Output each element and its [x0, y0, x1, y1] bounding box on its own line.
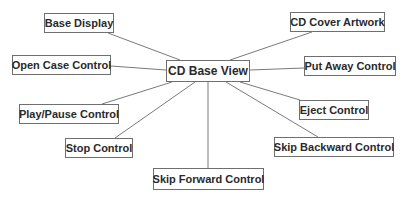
connector-open-case-control: [111, 66, 166, 70]
connector-eject-control: [240, 82, 300, 100]
node-label: CD Base View: [168, 64, 248, 78]
node-label: Eject Control: [300, 104, 368, 116]
node-label: Base Display: [45, 17, 113, 29]
node-label: Put Away Control: [304, 60, 395, 72]
node-eject-control: Eject Control: [299, 100, 369, 120]
node-stop-control: Stop Control: [65, 138, 133, 158]
connector-base-display: [108, 33, 180, 60]
connector-play-pause-control: [102, 82, 172, 104]
node-play-pause-control: Play/Pause Control: [19, 104, 119, 124]
node-label: Stop Control: [66, 142, 133, 154]
node-open-case-control: Open Case Control: [12, 55, 111, 75]
node-skip-backward-control: Skip Backward Control: [274, 137, 394, 157]
connector-put-away-control: [250, 68, 304, 70]
node-label: Play/Pause Control: [19, 108, 119, 120]
center-node-cd-base-view: CD Base View: [166, 60, 250, 82]
connector-stop-control: [115, 82, 195, 138]
node-label: Skip Forward Control: [153, 173, 265, 185]
node-skip-forward-control: Skip Forward Control: [153, 168, 264, 190]
node-cd-cover-artwork: CD Cover Artwork: [290, 12, 385, 32]
node-label: Skip Backward Control: [274, 141, 394, 153]
node-base-display: Base Display: [44, 13, 114, 33]
node-put-away-control: Put Away Control: [304, 56, 396, 76]
diagram-canvas: CD Base View Base Display CD Cover Artwo…: [0, 0, 410, 199]
node-label: Open Case Control: [12, 59, 112, 71]
connector-cd-cover-artwork: [230, 32, 312, 60]
node-label: CD Cover Artwork: [290, 16, 384, 28]
